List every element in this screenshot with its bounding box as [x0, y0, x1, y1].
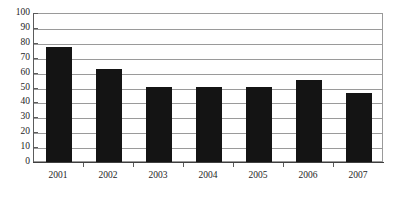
x-axis-line: [33, 162, 384, 163]
bar: [46, 47, 72, 163]
x-axis-tick: [283, 163, 284, 167]
x-axis-tick-label: 2006: [283, 170, 333, 181]
x-axis-tick: [183, 163, 184, 167]
y-axis-tick-label: 70: [2, 53, 30, 63]
gridline: [34, 74, 382, 75]
y-axis-tick-label: 10: [2, 142, 30, 152]
bar: [246, 87, 272, 163]
y-axis-tick: [34, 88, 38, 89]
bar: [146, 87, 172, 163]
x-axis-tick: [83, 163, 84, 167]
bar: [96, 69, 122, 163]
bar-chart-screenshot: 0102030405060708090100 20012002200320042…: [0, 0, 396, 201]
x-axis-tick: [333, 163, 334, 167]
bar: [346, 93, 372, 163]
x-axis-tick-label: 2003: [133, 170, 183, 181]
y-axis-tick-label: 100: [2, 8, 30, 18]
gridline: [34, 59, 382, 60]
x-axis-tick-label: 2005: [233, 170, 283, 181]
y-axis-tick: [34, 28, 38, 29]
y-axis-tick-label: 80: [2, 38, 30, 48]
y-axis-tick: [34, 117, 38, 118]
y-axis-tick: [34, 13, 38, 14]
gridline: [34, 29, 382, 30]
y-axis-tick-label: 60: [2, 68, 30, 78]
y-axis-tick-labels: 0102030405060708090100: [0, 0, 30, 201]
y-axis-tick-label: 20: [2, 127, 30, 137]
y-axis-tick: [34, 132, 38, 133]
x-axis-tick: [233, 163, 234, 167]
gridline: [34, 44, 382, 45]
x-axis-tick-label: 2002: [83, 170, 133, 181]
y-axis-tick: [34, 43, 38, 44]
y-axis-tick-label: 50: [2, 83, 30, 93]
y-axis-tick: [34, 102, 38, 103]
y-axis-tick: [34, 58, 38, 59]
x-axis-tick-label: 2001: [33, 170, 83, 181]
y-axis-tick-label: 0: [2, 157, 30, 167]
y-axis-tick: [34, 73, 38, 74]
y-axis-tick-label: 30: [2, 112, 30, 122]
y-axis-tick: [34, 147, 38, 148]
x-axis-tick: [133, 163, 134, 167]
y-axis-tick-label: 90: [2, 23, 30, 33]
x-axis-tick-label: 2004: [183, 170, 233, 181]
plot-area: [33, 13, 383, 162]
y-axis-tick-label: 40: [2, 97, 30, 107]
x-axis-tick-label: 2007: [333, 170, 383, 181]
bar: [196, 87, 222, 163]
bar: [296, 80, 322, 163]
